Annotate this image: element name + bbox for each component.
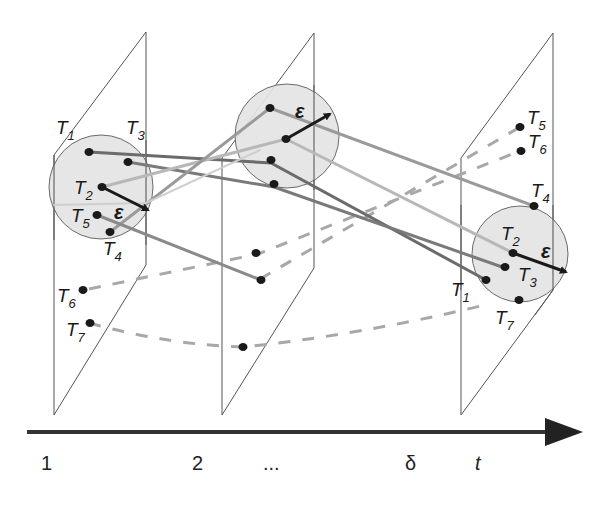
svg-text:T7: T7 [66,319,86,345]
point-p1-T6 [79,286,88,294]
point-p2-T3 [270,180,279,188]
point-p1-T7 [86,319,95,327]
point-p1-T2 [98,183,107,191]
point-p2-T5 [257,276,266,284]
point-p2-T1 [267,156,276,164]
point-p2-T4 [266,104,275,112]
point-p3-T4 [530,202,539,210]
epsilon-label-plane-2: ε [295,100,305,122]
point-p2-T6 [252,249,261,257]
point-p1-T1 [85,148,94,156]
time-axis: 1 2 ... δ t [27,418,583,474]
point-p3-T7 [515,296,524,304]
svg-text:T1: T1 [451,279,470,305]
epsilon-label-plane-3: ε [541,240,551,262]
trajectory-T5 [97,215,261,280]
tick-label-ellipsis: ... [263,452,280,474]
point-p3-T2 [509,249,518,257]
point-p1-T5 [93,211,102,219]
point-p1-T4 [106,228,115,236]
svg-text:T3: T3 [126,117,146,143]
tick-label-1: 1 [41,452,52,474]
point-p2-T7 [239,343,248,351]
svg-text:T5: T5 [527,107,547,133]
svg-text:T7: T7 [495,307,515,333]
point-p2-T2 [282,135,291,143]
point-p3-T1 [482,276,491,284]
tick-label-delta: δ [405,452,416,474]
point-p3-T5 [516,123,525,131]
time-axis-arrowhead-icon [545,418,583,446]
plane-2-labels: ε [295,100,305,122]
trajectory-diagram: T1 T3 T2 T5 T4 T6 T7 ε ε T5 T6 T4 T2 T3 … [0,0,604,507]
axis-label-t: t [475,452,482,474]
tick-label-2: 2 [192,452,203,474]
epsilon-label-plane-1: ε [114,201,124,223]
svg-text:T4: T4 [103,238,122,264]
point-p3-T6 [517,147,526,155]
point-p3-T3 [501,263,510,271]
svg-text:T6: T6 [57,285,77,311]
svg-text:T6: T6 [528,131,548,157]
point-p1-T3 [124,158,133,166]
